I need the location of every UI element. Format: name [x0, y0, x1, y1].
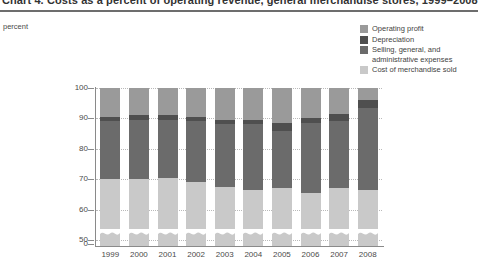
axis-break-wave-icon [272, 229, 292, 238]
axis-break-wave-icon [358, 229, 378, 238]
bar-segment [100, 121, 120, 179]
axis-break-wave-icon [215, 229, 235, 238]
axis-break-wave-icon [301, 229, 321, 238]
y-axis-tick-label: 80 [64, 144, 88, 153]
bar-segment [129, 115, 149, 120]
bar-column [100, 88, 120, 246]
bar-column [301, 88, 321, 246]
bar-segment [158, 120, 178, 178]
bar-segment [272, 88, 292, 123]
bar-segment [329, 114, 349, 122]
axis-break-wave-icon [129, 229, 149, 238]
x-axis-line [95, 246, 384, 247]
bar-segment [272, 123, 292, 131]
bar-segment [158, 115, 178, 120]
chart-plot-wrapper: 05060708090100 1999200020012002200320042… [0, 0, 478, 271]
y-axis-labels: 05060708090100 [60, 0, 88, 271]
bar-segment [243, 88, 263, 120]
bar-segment [186, 88, 206, 117]
y-axis-tick-label: 100 [64, 83, 88, 92]
y-axis-line [95, 87, 96, 247]
bar-segment [329, 121, 349, 188]
bar-column [186, 88, 206, 246]
axis-break-wave-icon [158, 229, 178, 238]
bar-column [129, 88, 149, 246]
y-axis-tick [88, 244, 94, 245]
bar-segment [100, 88, 120, 117]
bar-segment [100, 117, 120, 122]
axis-break-wave-icon [329, 229, 349, 238]
bar-segment [186, 121, 206, 182]
y-axis-tick-label: 90 [64, 113, 88, 122]
bar-segment [215, 124, 235, 186]
y-axis-tick-label: 60 [64, 205, 88, 214]
bar-column [158, 88, 178, 246]
y-axis-tick-label: 70 [64, 174, 88, 183]
y-axis-tick [88, 210, 94, 211]
y-axis-tick [88, 179, 94, 180]
bar-segment [243, 124, 263, 189]
bar-column [243, 88, 263, 246]
x-axis-tick-label: 2008 [348, 250, 388, 259]
axis-break-wave-icon [243, 229, 263, 238]
bar-column [358, 88, 378, 246]
y-axis-tick [88, 88, 94, 89]
y-axis-tick [88, 118, 94, 119]
y-axis-tick [88, 149, 94, 150]
bar-segment [301, 88, 321, 118]
y-axis-tick-label: 50 [64, 235, 88, 244]
bar-segment [215, 88, 235, 120]
bar-segment [358, 88, 378, 100]
bar-segment [358, 100, 378, 108]
bar-segment [243, 120, 263, 125]
bar-segment [272, 131, 292, 189]
bar-segment [329, 88, 349, 114]
bar-segment [215, 120, 235, 125]
bar-segment [186, 117, 206, 122]
chart-plot-area [96, 88, 382, 246]
bar-segment [158, 88, 178, 115]
bar-segment [129, 88, 149, 115]
bar-column [215, 88, 235, 246]
y-axis-tick [88, 240, 94, 241]
axis-break-wave-icon [100, 229, 120, 238]
axis-break-wave-icon [186, 229, 206, 238]
bar-column [272, 88, 292, 246]
bar-segment [129, 120, 149, 179]
bar-segment [358, 108, 378, 190]
bar-column [329, 88, 349, 246]
bar-segment [301, 193, 321, 246]
bar-segment [301, 118, 321, 123]
bar-segment [301, 123, 321, 193]
